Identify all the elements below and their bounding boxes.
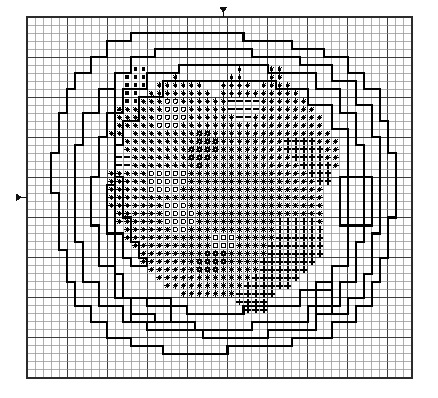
symbol-filled-star xyxy=(284,130,291,137)
symbol-filled-star xyxy=(140,202,147,209)
symbol-dash xyxy=(236,100,242,102)
symbol-filled-star xyxy=(132,202,139,209)
symbol-filled-star xyxy=(172,82,179,89)
symbol-filled-star xyxy=(204,98,211,105)
symbol-filled-star xyxy=(236,154,243,161)
symbol-filled-star xyxy=(188,178,195,185)
symbol-filled-star xyxy=(260,210,267,217)
symbol-filled-star xyxy=(260,114,267,121)
symbol-filled-star xyxy=(132,170,139,177)
symbol-filled-star xyxy=(276,98,283,105)
symbol-filled-star xyxy=(140,242,147,249)
symbol-filled-star xyxy=(116,106,123,113)
symbol-filled-star xyxy=(204,194,211,201)
symbol-filled-star xyxy=(300,210,307,217)
symbol-filled-star xyxy=(124,146,131,153)
symbol-filled-star xyxy=(268,226,275,233)
symbol-filled-star xyxy=(260,154,267,161)
symbol-filled-star xyxy=(308,130,315,137)
symbol-filled-star xyxy=(252,130,259,137)
symbol-filled-star xyxy=(196,170,203,177)
symbol-filled-star xyxy=(220,282,227,289)
symbol-filled-star xyxy=(220,266,227,273)
symbol-small-square xyxy=(134,91,138,95)
symbol-filled-star xyxy=(148,194,155,201)
symbol-filled-star xyxy=(292,162,299,169)
symbol-filled-star xyxy=(236,74,243,81)
symbol-filled-star xyxy=(124,226,131,233)
symbol-filled-star xyxy=(196,114,203,121)
symbol-filled-star xyxy=(148,154,155,161)
symbol-filled-star xyxy=(284,98,291,105)
symbol-filled-star xyxy=(188,226,195,233)
symbol-filled-star xyxy=(260,138,267,145)
symbol-filled-star xyxy=(156,138,163,145)
symbol-filled-star xyxy=(276,74,283,81)
symbol-filled-star xyxy=(124,122,131,129)
symbol-filled-star xyxy=(132,234,139,241)
symbol-filled-star xyxy=(300,106,307,113)
symbol-small-square xyxy=(134,99,138,103)
symbol-filled-star xyxy=(260,242,267,249)
symbol-filled-star xyxy=(252,210,259,217)
symbol-filled-star xyxy=(276,194,283,201)
symbol-filled-star xyxy=(300,194,307,201)
symbol-filled-star xyxy=(188,130,195,137)
symbol-filled-star xyxy=(276,154,283,161)
symbol-filled-star xyxy=(252,122,259,129)
symbol-filled-star xyxy=(316,202,323,209)
symbol-filled-star xyxy=(292,210,299,217)
symbol-filled-star xyxy=(252,202,259,209)
symbol-filled-star xyxy=(276,122,283,129)
symbol-filled-star xyxy=(132,218,139,225)
symbol-filled-star xyxy=(284,90,291,97)
symbol-filled-star xyxy=(188,82,195,89)
symbol-filled-star xyxy=(204,170,211,177)
symbol-filled-star xyxy=(172,194,179,201)
symbol-filled-star xyxy=(204,122,211,129)
symbol-filled-star xyxy=(268,202,275,209)
symbol-filled-star xyxy=(156,226,163,233)
symbol-filled-star xyxy=(228,218,235,225)
symbol-filled-star xyxy=(244,82,251,89)
symbol-filled-star xyxy=(244,226,251,233)
symbol-filled-star xyxy=(164,90,171,97)
symbol-small-square xyxy=(125,75,129,79)
symbol-filled-star xyxy=(260,218,267,225)
symbol-filled-star xyxy=(180,162,187,169)
symbol-filled-star xyxy=(148,210,155,217)
symbol-filled-star xyxy=(164,154,171,161)
symbol-filled-star xyxy=(284,82,291,89)
symbol-filled-star xyxy=(276,82,283,89)
symbol-filled-star xyxy=(244,162,251,169)
symbol-filled-star xyxy=(228,186,235,193)
symbol-filled-star xyxy=(220,170,227,177)
symbol-filled-star xyxy=(244,274,251,281)
symbol-filled-star xyxy=(260,234,267,241)
symbol-filled-star xyxy=(116,122,123,129)
symbol-filled-star xyxy=(260,162,267,169)
symbol-filled-star xyxy=(284,162,291,169)
symbol-filled-star xyxy=(236,186,243,193)
symbol-filled-star xyxy=(236,170,243,177)
symbol-filled-star xyxy=(140,186,147,193)
symbol-filled-star xyxy=(156,210,163,217)
symbol-filled-star xyxy=(268,74,275,81)
symbol-filled-star xyxy=(236,226,243,233)
symbol-filled-star xyxy=(196,202,203,209)
symbol-filled-star xyxy=(188,258,195,265)
symbol-filled-star xyxy=(252,170,259,177)
symbol-filled-star xyxy=(164,234,171,241)
symbol-filled-star xyxy=(148,258,155,265)
symbol-filled-star xyxy=(212,98,219,105)
symbol-filled-star xyxy=(228,146,235,153)
symbol-filled-star xyxy=(204,218,211,225)
symbol-filled-star xyxy=(108,186,115,193)
symbol-filled-star xyxy=(124,202,131,209)
symbol-filled-star xyxy=(332,146,339,153)
symbol-filled-star xyxy=(284,114,291,121)
symbol-filled-star xyxy=(164,226,171,233)
symbol-filled-star xyxy=(132,194,139,201)
symbol-filled-star xyxy=(156,258,163,265)
symbol-filled-star xyxy=(276,66,283,73)
